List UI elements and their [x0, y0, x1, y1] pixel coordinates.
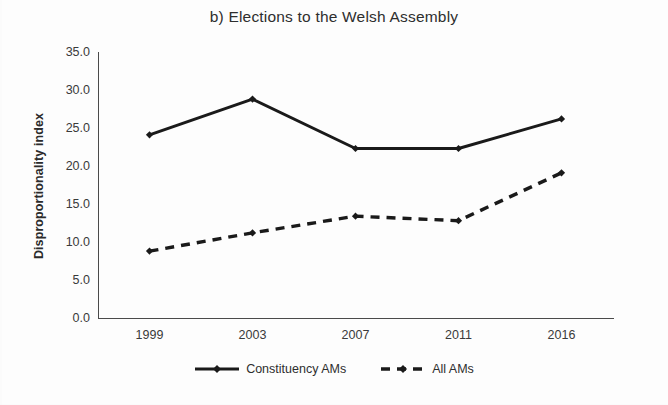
y-tick-label: 10.0: [44, 235, 90, 249]
data-point-marker: [249, 96, 256, 103]
series-line: [150, 173, 562, 251]
data-point-marker: [352, 213, 359, 220]
x-tick-label: 1999: [110, 328, 190, 342]
series-2: [146, 169, 565, 254]
chart-title: b) Elections to the Welsh Assembly: [0, 8, 668, 26]
x-axis-tick-labels: 19992003200720112016: [98, 328, 613, 348]
legend-label: Constituency AMs: [246, 362, 346, 376]
legend-label: All AMs: [432, 362, 474, 376]
legend-item-2[interactable]: All AMs: [380, 362, 474, 376]
data-point-marker: [213, 365, 221, 373]
data-point-marker: [352, 145, 359, 152]
series-line: [150, 99, 562, 148]
legend-item-1[interactable]: Constituency AMs: [194, 362, 346, 376]
x-tick-label: 2003: [213, 328, 293, 342]
data-point-marker: [146, 248, 153, 255]
data-point-marker: [455, 145, 462, 152]
y-tick-label: 20.0: [44, 159, 90, 173]
y-axis-line: [98, 52, 99, 319]
chart-legend: Constituency AMsAll AMs: [0, 362, 668, 376]
x-tick-label: 2011: [419, 328, 499, 342]
y-tick-label: 5.0: [44, 273, 90, 287]
chart-figure: b) Elections to the Welsh Assembly Dispr…: [0, 0, 668, 405]
legend-marker-icon: [380, 363, 426, 375]
data-point-marker: [558, 115, 565, 122]
y-tick-label: 25.0: [44, 121, 90, 135]
y-tick-label: 35.0: [44, 45, 90, 59]
series-1: [146, 96, 565, 153]
y-axis-tick-labels: 0.05.010.015.020.025.030.035.0: [38, 52, 90, 318]
x-tick-label: 2016: [522, 328, 602, 342]
legend-marker-icon: [194, 363, 240, 375]
data-point-marker: [146, 131, 153, 138]
data-point-marker: [249, 229, 256, 236]
data-point-marker: [558, 169, 565, 176]
x-axis-line: [98, 318, 614, 319]
data-point-marker: [455, 217, 462, 224]
x-tick-label: 2007: [316, 328, 396, 342]
y-tick-label: 30.0: [44, 83, 90, 97]
y-tick-label: 0.0: [44, 311, 90, 325]
y-tick-label: 15.0: [44, 197, 90, 211]
data-point-marker: [399, 365, 407, 373]
